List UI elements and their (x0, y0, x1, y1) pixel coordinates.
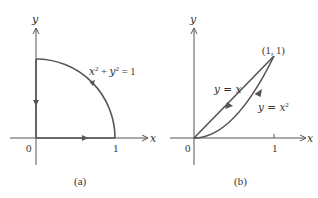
x-axis-label: x (307, 132, 314, 145)
line-y-equals-x (194, 56, 274, 138)
figure-canvas: y x 0 1 x2 + y2 = 1 (a) y x 0 1 (1, 1) y… (0, 0, 318, 198)
origin-label: 0 (185, 142, 191, 154)
x-tick-label-1: 1 (272, 142, 278, 154)
circle-equation-label: x2 + y2 = 1 (89, 65, 135, 77)
panel-a-caption: (a) (74, 175, 87, 188)
parabola-label: y = x2 (257, 101, 289, 113)
panel-a: y x 0 1 x2 + y2 = 1 (a) (10, 13, 157, 188)
panel-b-caption: (b) (234, 175, 247, 188)
origin-label: 0 (26, 142, 32, 154)
direction-arrow-down-icon (33, 100, 39, 106)
line-label: y = x (213, 83, 241, 95)
direction-arrow-right-icon (82, 135, 88, 141)
point-label-1-1: (1, 1) (262, 45, 285, 57)
y-axis-label: y (189, 13, 197, 26)
x-axis-label: x (150, 132, 157, 145)
x-tick-label-1: 1 (113, 142, 119, 154)
panel-b: y x 0 1 (1, 1) y = x y = x2 (b) (170, 13, 314, 188)
y-axis-label: y (31, 13, 39, 26)
